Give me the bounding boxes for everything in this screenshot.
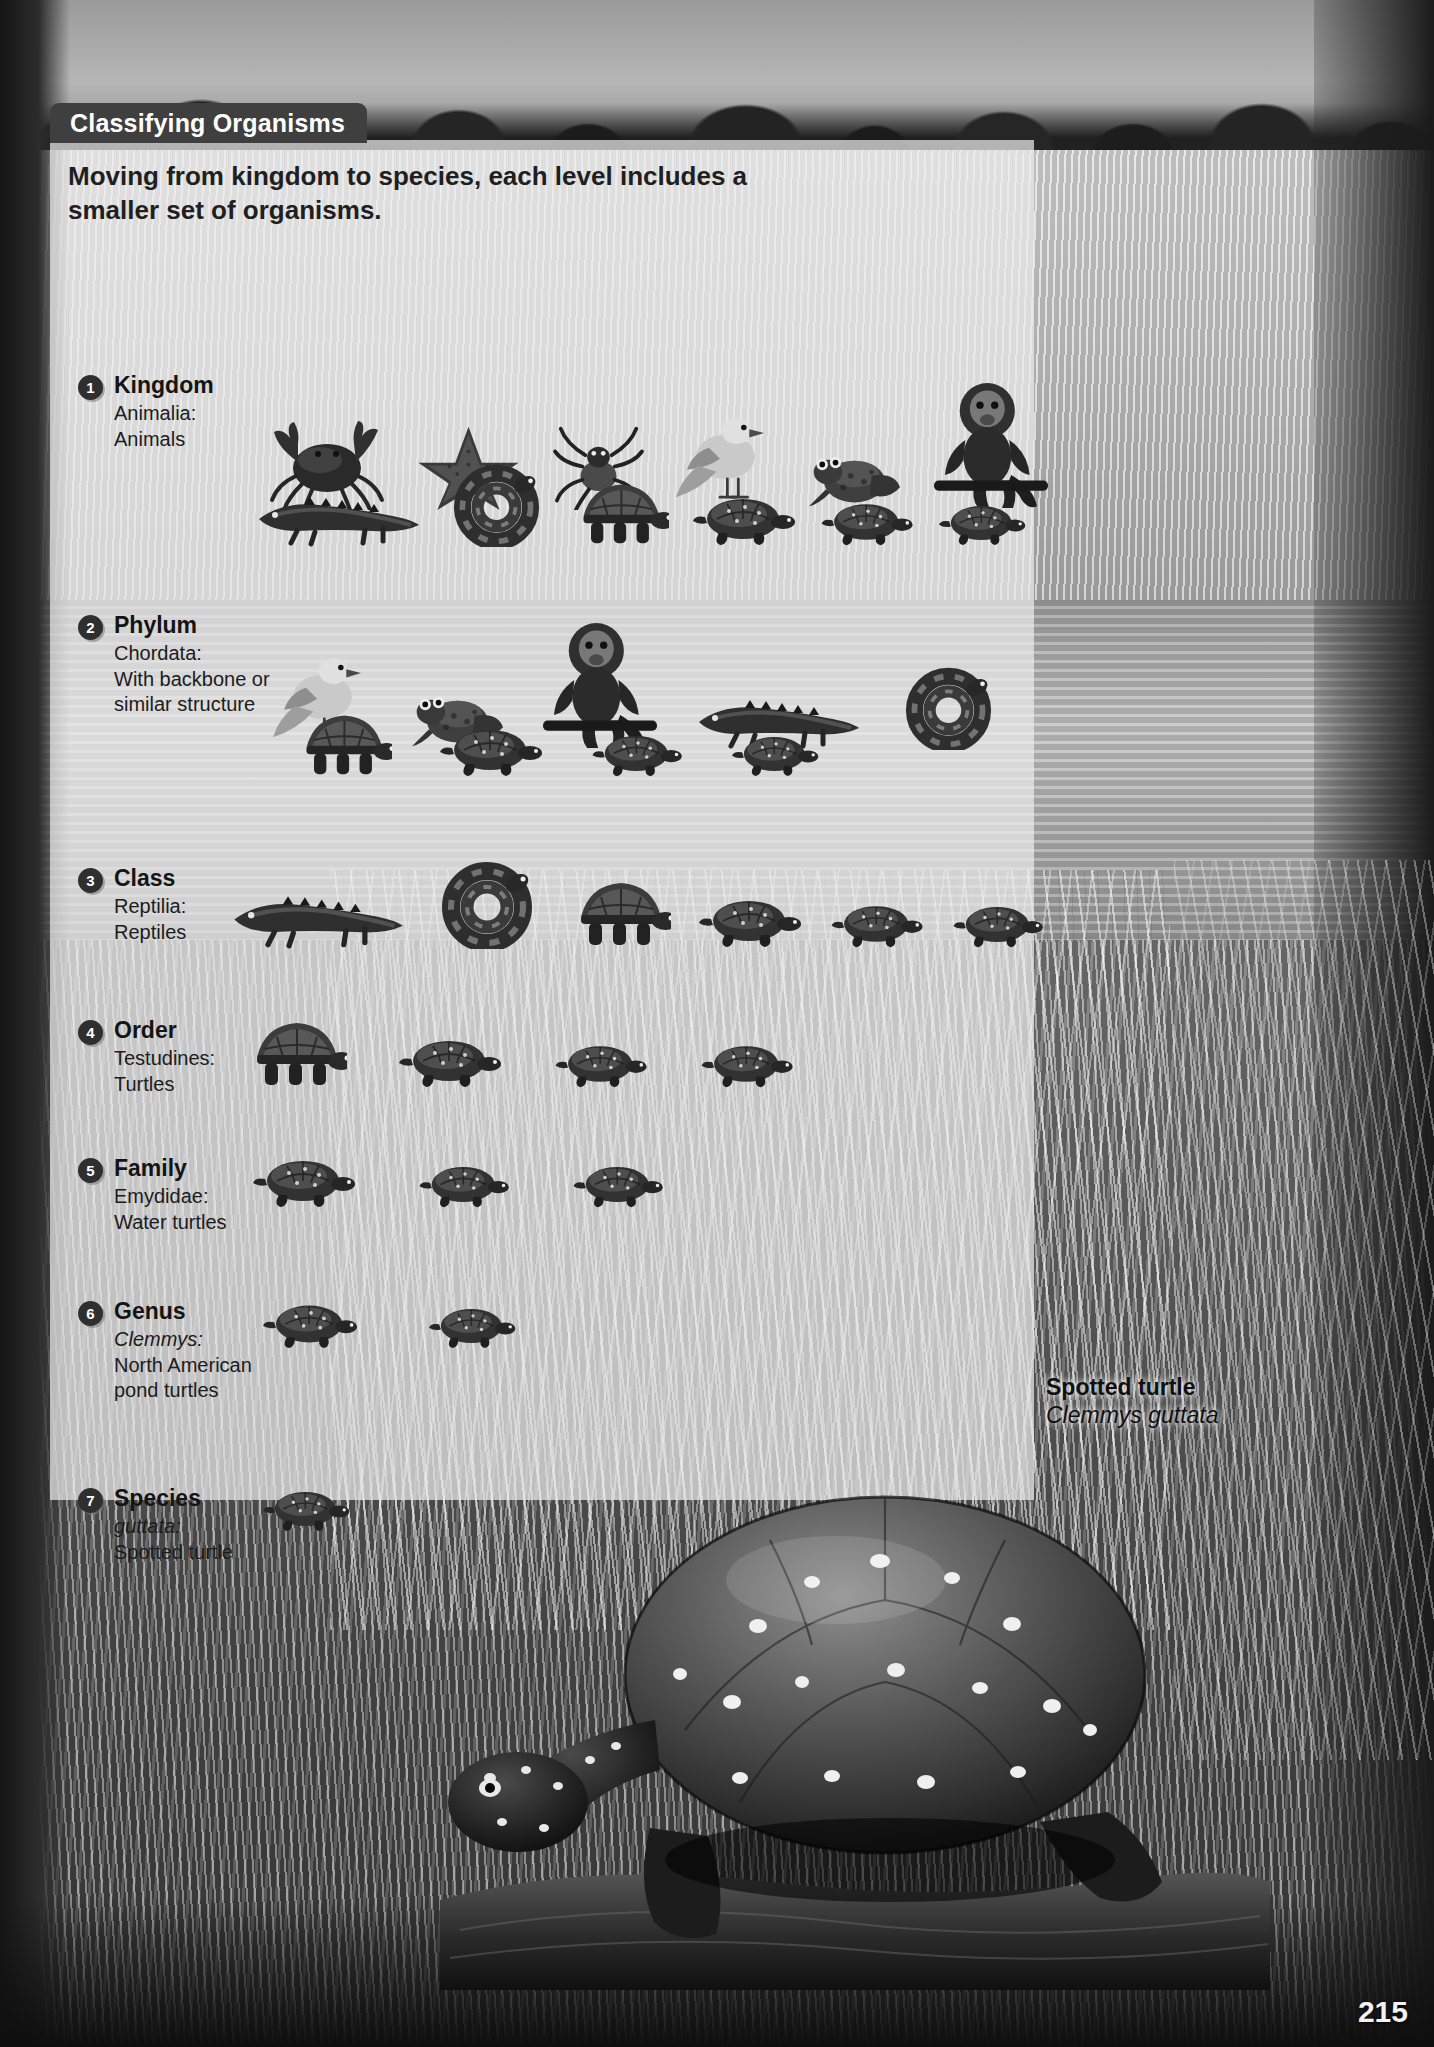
rank-taxon-name: guttata: [114, 1515, 181, 1537]
rank-name: Class [114, 865, 175, 892]
turtle-illustration [429, 1302, 517, 1350]
page-number: 215 [1358, 1995, 1408, 2029]
caption-scientific-name: Clemmys guttata [1046, 1402, 1376, 1430]
rank-number-badge: 4 [78, 1020, 103, 1045]
rank-meaning: Turtles [114, 1073, 174, 1095]
tortoise-illustration [567, 871, 671, 949]
turtle-illustration [699, 893, 803, 949]
turtle-illustration [939, 499, 1027, 547]
rank-number-badge: 5 [78, 1158, 103, 1183]
turtle-illustration [732, 730, 820, 778]
turtle-illustration [440, 722, 544, 778]
turtle-illustration [555, 1039, 649, 1089]
crocodile-illustration [228, 873, 407, 949]
rank-name: Order [114, 1017, 177, 1044]
rank-name: Kingdom [114, 372, 214, 399]
rank-meaning: Reptiles [114, 921, 186, 943]
rank-taxon-name: Clemmys: [114, 1328, 203, 1350]
tortoise-illustration [243, 1011, 347, 1089]
organism-row [263, 1298, 517, 1350]
caption-common-name: Spotted turtle [1046, 1374, 1376, 1402]
turtle-illustration [821, 497, 915, 547]
rank-number-badge: 6 [78, 1301, 103, 1326]
organism-row [228, 857, 1045, 949]
rank-number-badge: 3 [78, 868, 103, 893]
page-title: Classifying Organisms [70, 109, 345, 138]
turtle-illustration [419, 1160, 511, 1209]
content-panel [50, 140, 1034, 1500]
turtle-illustration [953, 900, 1045, 949]
turtle-illustration [253, 1153, 357, 1209]
textbook-page: Classifying Organisms Moving from kingdo… [0, 0, 1434, 2047]
turtle-illustration [831, 899, 925, 949]
rank-meaning: Spotted turtle [114, 1541, 233, 1563]
rank-name: Genus [114, 1298, 186, 1325]
rank-meaning: Animals [114, 428, 185, 450]
rank-taxon-name: Animalia: [114, 402, 196, 424]
rank-taxon-name: Testudines: [114, 1047, 215, 1069]
snake-illustration [447, 460, 546, 547]
organism-row [253, 1153, 665, 1209]
rank-name: Species [114, 1485, 201, 1512]
turtle-illustration [399, 1033, 503, 1089]
bottom-vignette [0, 1897, 1434, 2047]
rank-description: Chordata:With backbone or similar struct… [114, 641, 294, 718]
turtle-illustration [592, 729, 684, 778]
tortoise-illustration [570, 473, 669, 547]
rank-description: Animalia:Animals [114, 401, 294, 452]
rank-meaning: Water turtles [114, 1211, 227, 1233]
turtle-illustration [263, 1298, 359, 1350]
snake-illustration [435, 857, 539, 949]
rank-name: Family [114, 1155, 187, 1182]
rank-number-badge: 7 [78, 1488, 103, 1513]
organism-row [263, 1485, 351, 1533]
turtle-illustration [701, 1039, 795, 1089]
header-tab: Classifying Organisms [50, 103, 367, 143]
rank-meaning: With backbone or similar structure [114, 668, 270, 716]
turtle-illustration [263, 1485, 351, 1533]
photo-caption: Spotted turtle Clemmys guttata [1046, 1374, 1376, 1429]
rank-taxon-name: Reptilia: [114, 895, 186, 917]
rank-number-badge: 2 [78, 615, 103, 640]
crocodile-illustration [253, 475, 423, 547]
rank-name: Phylum [114, 612, 197, 639]
right-vignette [1314, 0, 1434, 2047]
tortoise-illustration [293, 704, 392, 778]
turtle-illustration [573, 1160, 665, 1209]
rank-meaning: North American pond turtles [114, 1354, 252, 1402]
organism-row [293, 704, 820, 778]
rank-number-badge: 1 [78, 375, 103, 400]
rank-taxon-name: Chordata: [114, 642, 202, 664]
organism-row [253, 460, 1027, 547]
intro-text: Moving from kingdom to species, each lev… [68, 160, 828, 228]
organism-row [243, 1011, 795, 1089]
rank-taxon-name: Emydidae: [114, 1185, 209, 1207]
snake-illustration [899, 663, 998, 750]
turtle-illustration [693, 491, 797, 547]
